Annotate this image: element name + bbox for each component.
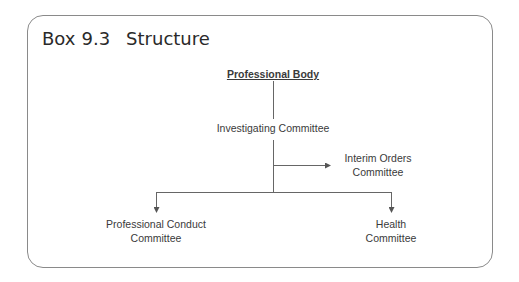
node-label-line1: Health bbox=[366, 217, 417, 231]
node-label: Professional Body bbox=[227, 68, 319, 80]
node-label-line1: Interim Orders bbox=[344, 151, 411, 165]
node-label-line2: Committee bbox=[344, 165, 411, 179]
node-health-committee: Health Committee bbox=[366, 217, 417, 245]
node-label-line2: Committee bbox=[106, 231, 206, 245]
node-interim-orders-committee: Interim Orders Committee bbox=[344, 151, 411, 179]
node-investigating-committee: Investigating Committee bbox=[217, 121, 330, 135]
node-professional-body: Professional Body bbox=[227, 67, 319, 81]
node-label-line2: Committee bbox=[366, 231, 417, 245]
node-professional-conduct-committee: Professional Conduct Committee bbox=[106, 217, 206, 245]
node-label-line1: Professional Conduct bbox=[106, 217, 206, 231]
node-label: Investigating Committee bbox=[217, 122, 330, 134]
connector-lines bbox=[0, 0, 519, 282]
